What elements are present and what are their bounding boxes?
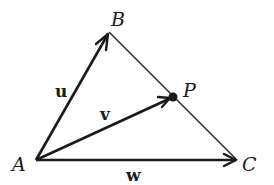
vector-u-line	[36, 34, 108, 160]
diagram-svg: A B C P u v w	[0, 0, 274, 185]
label-p: P	[182, 79, 197, 101]
label-a: A	[10, 153, 26, 175]
label-w: w	[125, 165, 141, 185]
vector-diagram: A B C P u v w	[0, 0, 274, 185]
label-b: B	[110, 8, 125, 30]
point-p-dot	[169, 93, 178, 102]
label-c: C	[242, 153, 257, 175]
label-u: u	[55, 81, 67, 101]
label-v: v	[99, 104, 111, 124]
